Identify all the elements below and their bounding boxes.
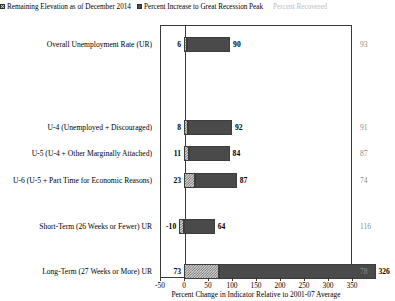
percent-recovered-value: 74 <box>360 170 386 192</box>
chart-row: Overall Unemployment Rate (UR)69093 <box>0 34 389 56</box>
percent-increase-value: 90 <box>233 34 259 56</box>
bar-chart: Overall Unemployment Rate (UR)69093U-4 (… <box>0 13 389 301</box>
legend-label-remaining-elevation: Remaining Elevation as of December 2014 <box>7 3 131 11</box>
bar-segment-percent-increase <box>195 173 237 188</box>
bar-segment-remaining-elevation <box>184 264 219 279</box>
bar-segment-remaining-elevation <box>184 173 195 188</box>
x-axis-title: Percent Change in Indicator Relative to … <box>160 290 352 299</box>
chart-row: Short-Term (26 Weeks or Fewer) UR-106411… <box>0 216 389 238</box>
category-label: U-4 (Unemployed + Discouraged) <box>0 117 152 139</box>
category-label: Short-Term (26 Weeks or Fewer) UR <box>0 216 152 238</box>
hatched-square-icon <box>0 4 5 9</box>
remaining-elevation-value: -10 <box>154 216 176 238</box>
category-label: Long-Term (27 Weeks or More) UR <box>0 261 152 283</box>
category-label: Overall Unemployment Rate (UR) <box>0 34 152 56</box>
percent-increase-value: 92 <box>235 117 261 139</box>
legend-item-percent-increase: Percent Increase to Great Recession Peak <box>137 3 263 11</box>
bar-segment-percent-increase <box>219 264 375 279</box>
percent-recovered-value: 78 <box>360 261 386 283</box>
chart-row: U-6 (U-5 + Part Time for Economic Reason… <box>0 170 389 192</box>
remaining-elevation-value: 8 <box>159 117 181 139</box>
bar-segment-percent-increase <box>188 120 232 135</box>
x-axis-tick-label: 350 <box>337 281 367 290</box>
chart-row: U-5 (U-4 + Other Marginally Attached)118… <box>0 143 389 165</box>
percent-recovered-value: 87 <box>360 143 386 165</box>
category-label: U-5 (U-4 + Other Marginally Attached) <box>0 143 152 165</box>
filled-square-icon <box>137 4 142 9</box>
legend-item-remaining-elevation: Remaining Elevation as of December 2014 <box>0 3 131 11</box>
stacked-bar <box>160 216 352 238</box>
remaining-elevation-value: 6 <box>159 34 181 56</box>
legend-label-percent-recovered: Percent Recovered <box>273 3 327 11</box>
percent-increase-value: 64 <box>218 216 244 238</box>
percent-recovered-value: 91 <box>360 117 386 139</box>
percent-recovered-value: 93 <box>360 34 386 56</box>
bar-segment-percent-increase <box>184 219 215 234</box>
legend-item-percent-recovered: Percent Recovered <box>273 3 327 11</box>
remaining-elevation-value: 23 <box>159 170 181 192</box>
bar-segment-percent-increase <box>189 146 229 161</box>
category-label: U-6 (U-5 + Part Time for Economic Reason… <box>0 170 152 192</box>
percent-increase-value: 84 <box>233 143 259 165</box>
chart-legend: Remaining Elevation as of December 2014 … <box>0 0 389 13</box>
percent-recovered-value: 116 <box>360 216 386 238</box>
percent-increase-value: 87 <box>240 170 266 192</box>
remaining-elevation-value: 11 <box>159 143 181 165</box>
legend-label-percent-increase: Percent Increase to Great Recession Peak <box>144 3 263 11</box>
bar-segment-percent-increase <box>187 37 230 52</box>
chart-row: U-4 (Unemployed + Discouraged)89291 <box>0 117 389 139</box>
